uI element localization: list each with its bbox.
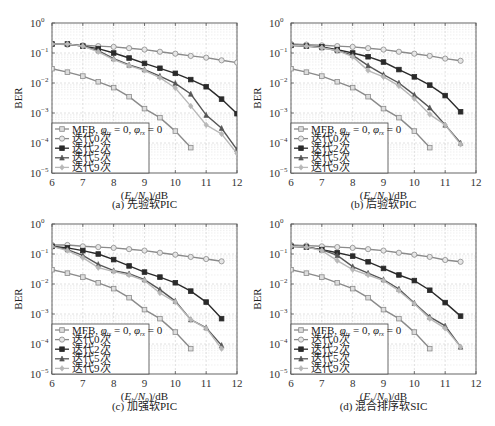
- y-axis-label: BER: [251, 288, 263, 310]
- svg-text:12: 12: [232, 377, 243, 389]
- svg-text:11: 11: [440, 377, 451, 389]
- svg-text:7: 7: [319, 377, 325, 389]
- chart-panel-d: 678910111210010−110−210−310−410−5BER(Eb/…: [251, 217, 482, 413]
- svg-text:9: 9: [381, 377, 387, 389]
- svg-text:6: 6: [288, 377, 294, 389]
- svg-text:10−2: 10−2: [30, 277, 49, 290]
- svg-text:10−5: 10−5: [269, 166, 288, 179]
- panel-caption: (b) 后验软PIC: [351, 197, 417, 211]
- svg-text:6: 6: [288, 176, 294, 188]
- svg-text:10−4: 10−4: [269, 136, 288, 149]
- svg-text:9: 9: [142, 176, 148, 188]
- svg-text:100: 100: [30, 16, 45, 29]
- y-tick-labels: 10010−110−210−310−410−5: [30, 16, 55, 179]
- svg-text:6: 6: [49, 377, 55, 389]
- svg-text:8: 8: [350, 176, 356, 188]
- svg-text:10−1: 10−1: [30, 247, 49, 260]
- legend-item-4: 迭代9次: [311, 361, 350, 374]
- svg-text:8: 8: [111, 377, 117, 389]
- svg-text:9: 9: [142, 377, 148, 389]
- svg-text:8: 8: [350, 377, 356, 389]
- svg-text:7: 7: [80, 377, 86, 389]
- legend-item-4: 迭代9次: [72, 160, 111, 173]
- svg-text:11: 11: [201, 377, 212, 389]
- chart-panel-c: 678910111210010−110−210−310−410−5BER(Eb/…: [12, 217, 243, 413]
- panel-caption: (d) 混合排序软SIC: [340, 399, 428, 413]
- y-tick-labels: 10010−110−210−310−410−5: [269, 16, 294, 179]
- svg-text:10−4: 10−4: [269, 337, 288, 350]
- legend: MFB, φtx = 0, φrx = 0迭代0次迭代2次迭代5次迭代9次: [291, 324, 402, 375]
- legend-item-4: 迭代9次: [72, 361, 111, 374]
- chart-panel-a: 678910111210010−110−210−310−410−5BER(Eb/…: [12, 16, 243, 211]
- svg-text:12: 12: [471, 377, 482, 389]
- svg-text:10−5: 10−5: [30, 166, 49, 179]
- y-axis-label: BER: [251, 87, 263, 109]
- svg-text:10−4: 10−4: [30, 337, 49, 350]
- svg-text:11: 11: [440, 176, 451, 188]
- svg-text:9: 9: [381, 176, 387, 188]
- svg-text:6: 6: [49, 176, 55, 188]
- svg-text:10−2: 10−2: [269, 76, 288, 89]
- svg-text:100: 100: [269, 16, 284, 29]
- svg-text:10−5: 10−5: [269, 367, 288, 380]
- svg-text:10−3: 10−3: [30, 106, 49, 119]
- y-axis-label: BER: [12, 288, 24, 310]
- svg-text:10−1: 10−1: [30, 46, 49, 59]
- svg-text:10: 10: [409, 176, 421, 188]
- svg-text:12: 12: [471, 176, 482, 188]
- legend-item-4: 迭代9次: [311, 160, 350, 173]
- legend: MFB, φtx = 0, φrx = 0迭代0次迭代2次迭代5次迭代9次: [52, 123, 163, 174]
- svg-text:11: 11: [201, 176, 212, 188]
- svg-text:12: 12: [232, 176, 243, 188]
- svg-text:10−4: 10−4: [30, 136, 49, 149]
- svg-text:100: 100: [30, 217, 45, 230]
- panel-caption: (c) 加强软PIC: [112, 399, 177, 413]
- svg-text:10−1: 10−1: [269, 46, 288, 59]
- svg-text:10−1: 10−1: [269, 247, 288, 260]
- legend: MFB, φtx = 0, φrx = 0迭代0次迭代2次迭代5次迭代9次: [52, 324, 163, 375]
- svg-text:10: 10: [409, 377, 421, 389]
- y-tick-labels: 10010−110−210−310−410−5: [269, 217, 294, 380]
- svg-text:7: 7: [80, 176, 86, 188]
- y-axis-label: BER: [12, 87, 24, 109]
- svg-text:10−3: 10−3: [30, 307, 49, 320]
- svg-text:10−3: 10−3: [269, 106, 288, 119]
- svg-text:10−3: 10−3: [269, 307, 288, 320]
- svg-text:10−2: 10−2: [269, 277, 288, 290]
- svg-text:100: 100: [269, 217, 284, 230]
- svg-text:10: 10: [170, 176, 182, 188]
- svg-text:7: 7: [319, 176, 325, 188]
- svg-text:8: 8: [111, 176, 117, 188]
- svg-text:10−5: 10−5: [30, 367, 49, 380]
- ber-figure: 678910111210010−110−210−310−410−5BER(Eb/…: [0, 0, 495, 426]
- chart-panel-b: 678910111210010−110−210−310−410−5BER(Eb/…: [251, 16, 482, 211]
- y-tick-labels: 10010−110−210−310−410−5: [30, 217, 55, 380]
- legend: MFB, φtx = 0, φrx = 0迭代0次迭代2次迭代5次迭代9次: [291, 123, 402, 174]
- svg-text:10: 10: [170, 377, 182, 389]
- svg-text:10−2: 10−2: [30, 76, 49, 89]
- panel-caption: (a) 先验软PIC: [112, 197, 177, 211]
